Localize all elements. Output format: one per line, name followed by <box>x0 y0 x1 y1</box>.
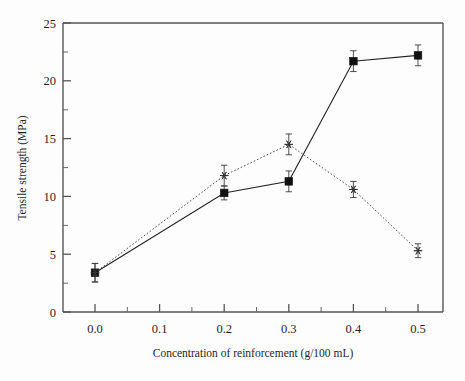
data-point-square <box>220 189 228 197</box>
series-line <box>95 55 418 272</box>
x-tick-label: 0.5 <box>410 322 426 336</box>
x-axis-title: Concentration of reinforcement (g/100 mL… <box>153 347 354 360</box>
series-dotted-star-series <box>91 134 422 282</box>
y-axis-ticks <box>63 23 71 312</box>
y-tick-labels: 0 5 10 15 20 25 <box>44 17 57 320</box>
tensile-strength-plot: 0 5 10 15 20 25 0.0 0.1 0.2 0.3 0.4 0.5 … <box>0 0 465 381</box>
data-point-square <box>350 57 358 65</box>
series-solid-square-series <box>91 45 422 282</box>
x-tick-labels: 0.0 0.1 0.2 0.3 0.4 0.5 <box>87 322 426 336</box>
plot-frame <box>63 23 443 312</box>
y-tick-label: 25 <box>44 17 57 31</box>
y-tick-label: 10 <box>44 190 57 204</box>
series-layer <box>91 45 422 282</box>
y-tick-label: 15 <box>44 132 57 146</box>
x-tick-label: 0.3 <box>281 322 297 336</box>
y-tick-label: 0 <box>50 306 56 320</box>
y-tick-label: 5 <box>50 248 56 262</box>
y-axis-title: Tensile strength (MPa) <box>16 115 29 220</box>
x-tick-label: 0.2 <box>216 322 232 336</box>
x-tick-label: 0.0 <box>87 322 103 336</box>
x-axis-ticks <box>95 304 418 312</box>
chart-figure: 0 5 10 15 20 25 0.0 0.1 0.2 0.3 0.4 0.5 … <box>0 0 465 381</box>
x-tick-label: 0.4 <box>346 322 362 336</box>
x-tick-label: 0.1 <box>152 322 168 336</box>
y-tick-label: 20 <box>44 74 57 88</box>
data-point-square <box>285 178 293 186</box>
series-line <box>95 144 418 272</box>
data-point-square <box>414 52 422 60</box>
